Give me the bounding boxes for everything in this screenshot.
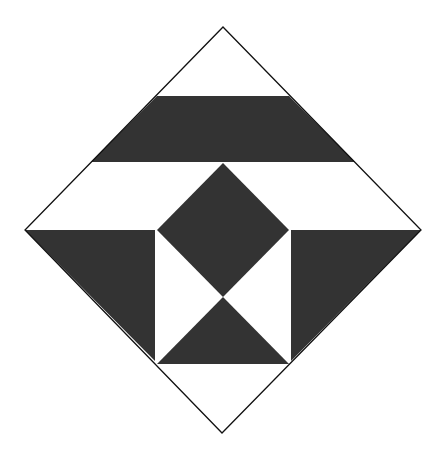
quilt-block-diagram	[0, 0, 448, 453]
diagram-canvas	[0, 0, 448, 453]
